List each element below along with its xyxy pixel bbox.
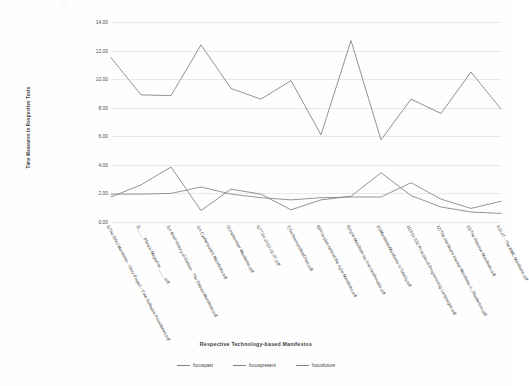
x-axis-tick-label: 13)The Resolve Manifesto.pdf	[466, 224, 497, 277]
x-axis-tick-label: 1)The GNU Manifesto - GNU Project - Free…	[106, 224, 172, 342]
series-lines	[111, 22, 501, 222]
x-axis-tick-label: 2)____ Phrack Magazine ____.pdf	[136, 224, 171, 284]
y-axis-tick-label: 8.00	[98, 105, 108, 110]
y-axis-tick-label: 14.00	[96, 20, 108, 25]
y-axis-tick-label: 12.00	[96, 48, 108, 53]
legend-label: focuspresent	[249, 363, 276, 368]
y-axis-title: Time Measures in Respective Texts	[26, 48, 31, 208]
series-line-focuspast	[111, 167, 501, 213]
x-axis-tick-label: 5)Unabomber Manifesto.pdf	[226, 224, 255, 273]
legend-item[interactable]: focusfuture	[296, 363, 335, 368]
x-axis-tick-label: 6)TTSA-2013-02-07.pdf	[256, 224, 282, 266]
y-axis-tick-label: 6.00	[98, 134, 108, 139]
scan-artifact	[60, 2, 66, 8]
x-axis-tick-label: 10)ManifestoManifesto in Totality.pdf	[376, 224, 413, 288]
legend-item[interactable]: focuspast	[177, 363, 213, 368]
x-axis-title: Respective Technology-based Manifestos	[0, 341, 512, 347]
legend-line-icon	[233, 365, 246, 366]
legend-label: focusfuture	[312, 363, 335, 368]
x-axis-tick-label: 14)Lo7 - The BMC Manifesto.pdf	[496, 224, 529, 281]
y-axis-tick-label: 4.00	[98, 162, 108, 167]
x-axis-tick-label: 3)A Brief History of Debian - The Debian…	[166, 224, 219, 318]
legend-item[interactable]: focuspresent	[233, 363, 276, 368]
series-line-focuspresent	[111, 41, 501, 140]
legend-line-icon	[177, 365, 190, 366]
legend-label: focuspast	[193, 363, 213, 368]
chart-legend: focuspastfocuspresentfocusfuture	[0, 363, 512, 368]
legend-line-icon	[296, 365, 309, 366]
y-axis-tick-label: 0.00	[98, 220, 108, 225]
x-axis-tick-label: 11)S15-332 Principle of Programming Lang…	[406, 224, 458, 316]
y-axis-tick-label: 10.00	[96, 77, 108, 82]
x-axis-tick-label: 7)TechnomanifestOnes.pdf	[286, 224, 315, 272]
x-axis-tick-label: 12)The Hardware Hacker Manifesto A_Shade…	[436, 224, 488, 317]
x-axis-tick-labels: 1)The GNU Manifesto - GNU Project - Free…	[111, 224, 501, 336]
y-axis-tick-label: 2.00	[98, 191, 108, 196]
x-axis-tick-label: 4)A Cypherpunk's Manifesto.pdf	[196, 224, 229, 280]
plot-area: 0.002.004.006.008.0010.0012.0014.00	[111, 22, 501, 222]
